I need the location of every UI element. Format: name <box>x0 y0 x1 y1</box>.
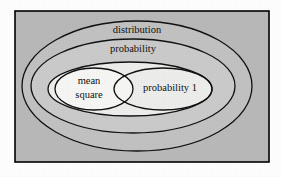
figure-container: distribution probability mean square pro… <box>0 0 282 177</box>
nested-venn-diagram: distribution probability mean square pro… <box>0 0 282 177</box>
label-distribution: distribution <box>113 24 162 35</box>
label-mean-square-line2: square <box>75 89 103 100</box>
label-probability-1: probability 1 <box>143 82 197 93</box>
label-mean-square-line1: mean <box>78 75 101 86</box>
label-probability: probability <box>110 43 157 54</box>
